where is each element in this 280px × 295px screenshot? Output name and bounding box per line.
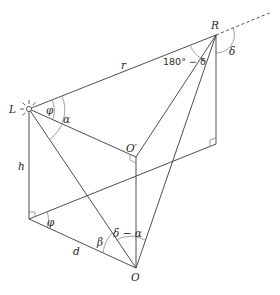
segment-Oprime-R [136,35,216,157]
segment-L-R [29,35,216,109]
label-delta-minus-alpha: δ − α [113,227,142,239]
label-delta: δ [229,45,235,57]
geometry-diagram: L R O O′ r h d φ α φ β δ − α 180° − δ δ [0,0,280,295]
extension-beyond-R [216,12,272,35]
label-phi-bottom: φ [47,216,55,228]
label-180-minus-delta: 180° − δ [163,56,206,67]
label-phi-top: φ [46,104,54,116]
label-point-L: L [8,103,16,115]
label-point-O-prime: O′ [126,142,138,154]
segment-H-Rfoot [29,144,216,219]
label-point-R: R [210,19,219,31]
label-h: h [18,160,25,172]
segment-O-R [136,35,216,268]
arc-beta [103,233,112,253]
label-d: d [73,245,80,257]
label-beta: β [96,236,103,248]
diagram-canvas: L R O O′ r h d φ α φ β δ − α 180° − δ δ [0,0,280,295]
right-angle-marker-H [29,212,35,216]
label-alpha: α [63,113,70,125]
label-r: r [121,59,127,71]
label-point-O: O [131,271,140,283]
